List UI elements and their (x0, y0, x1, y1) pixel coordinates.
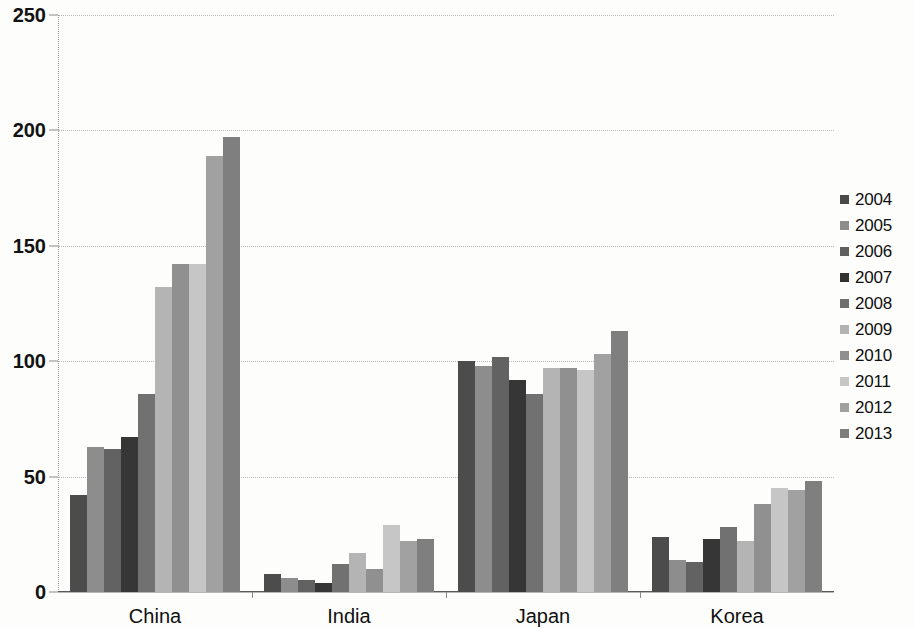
bar-japan-2005 (475, 366, 492, 592)
bar-korea-2013 (805, 481, 822, 592)
bar-group-japan: Japan (446, 15, 640, 592)
legend: 2004200520062007200820092010201120122013 (840, 186, 912, 446)
bar-china-2004 (70, 495, 87, 592)
legend-item-2008[interactable]: 2008 (840, 290, 912, 316)
x-axis-group-separator (640, 592, 641, 598)
x-axis-tick-label-india: India (327, 605, 370, 628)
legend-item-label: 2007 (855, 269, 892, 286)
x-axis-tick-label-japan: Japan (516, 605, 571, 628)
y-axis-tick-label: 200 (0, 120, 46, 140)
bar-india-2009 (349, 553, 366, 592)
bar-india-2008 (332, 564, 349, 592)
legend-item-2006[interactable]: 2006 (840, 238, 912, 264)
bar-china-2013 (223, 137, 240, 592)
legend-item-label: 2005 (855, 217, 892, 234)
y-axis-tick-label: 150 (0, 236, 46, 256)
legend-item-label: 2008 (855, 295, 892, 312)
x-axis-tick-label-korea: Korea (710, 605, 763, 628)
bar-china-2012 (206, 156, 223, 592)
legend-item-label: 2013 (855, 425, 892, 442)
bar-india-2004 (264, 574, 281, 592)
bar-china-2008 (138, 394, 155, 592)
legend-item-label: 2012 (855, 399, 892, 416)
bar-korea-2007 (703, 539, 720, 592)
bar-korea-2006 (686, 562, 703, 592)
legend-swatch-icon (840, 273, 849, 282)
bar-japan-2010 (560, 368, 577, 592)
bar-india-2011 (383, 525, 400, 592)
legend-swatch-icon (840, 351, 849, 360)
bar-china-2005 (87, 447, 104, 592)
y-axis-tick-mark (49, 130, 58, 131)
y-axis-tick-label: 50 (0, 467, 46, 487)
legend-item-label: 2011 (855, 373, 891, 390)
bar-india-2007 (315, 583, 332, 592)
legend-swatch-icon (840, 429, 849, 438)
legend-swatch-icon (840, 377, 849, 386)
legend-item-label: 2006 (855, 243, 892, 260)
chart-figure: 050100150200250 ChinaIndiaJapanKorea 200… (0, 0, 915, 628)
legend-item-label: 2004 (855, 191, 892, 208)
y-axis-tick-mark (49, 592, 58, 593)
legend-item-2010[interactable]: 2010 (840, 342, 912, 368)
bar-japan-2012 (594, 354, 611, 592)
legend-item-2013[interactable]: 2013 (840, 420, 912, 446)
y-axis-tick-mark (49, 245, 58, 246)
y-axis-tick-mark (49, 361, 58, 362)
bar-india-2012 (400, 541, 417, 592)
bar-groups: ChinaIndiaJapanKorea (58, 15, 834, 592)
bar-group-china: China (58, 15, 252, 592)
legend-item-label: 2010 (855, 347, 892, 364)
y-axis-tick-label: 100 (0, 351, 46, 371)
x-axis-group-separator (446, 592, 447, 598)
legend-item-2007[interactable]: 2007 (840, 264, 912, 290)
bar-japan-2007 (509, 380, 526, 592)
legend-item-2004[interactable]: 2004 (840, 186, 912, 212)
bar-korea-2011 (771, 488, 788, 592)
legend-swatch-icon (840, 195, 849, 204)
legend-swatch-icon (840, 247, 849, 256)
bar-china-2009 (155, 287, 172, 592)
legend-item-2009[interactable]: 2009 (840, 316, 912, 342)
x-axis-group-separator (252, 592, 253, 598)
bar-group-india: India (252, 15, 446, 592)
bar-china-2006 (104, 449, 121, 592)
y-axis-tick-label: 0 (0, 582, 46, 602)
bar-korea-2012 (788, 490, 805, 592)
legend-swatch-icon (840, 221, 849, 230)
legend-item-2011[interactable]: 2011 (840, 368, 912, 394)
bar-india-2013 (417, 539, 434, 592)
bar-china-2011 (189, 264, 206, 592)
legend-item-2005[interactable]: 2005 (840, 212, 912, 238)
bar-japan-2004 (458, 361, 475, 592)
bar-japan-2008 (526, 394, 543, 592)
bar-korea-2005 (669, 560, 686, 592)
plot-area: ChinaIndiaJapanKorea (58, 15, 834, 592)
bar-korea-2004 (652, 537, 669, 592)
bar-india-2010 (366, 569, 383, 592)
legend-item-label: 2009 (855, 321, 892, 338)
bar-korea-2010 (754, 504, 771, 592)
bar-india-2006 (298, 580, 315, 592)
bar-japan-2009 (543, 368, 560, 592)
bar-china-2010 (172, 264, 189, 592)
bar-india-2005 (281, 578, 298, 592)
legend-swatch-icon (840, 299, 849, 308)
legend-swatch-icon (840, 325, 849, 334)
y-axis-tick-label: 250 (0, 5, 46, 25)
x-axis-tick-label-china: China (129, 605, 181, 628)
bar-japan-2006 (492, 357, 509, 592)
legend-swatch-icon (840, 403, 849, 412)
bar-group-korea: Korea (640, 15, 834, 592)
y-axis-tick-mark (49, 476, 58, 477)
bar-japan-2013 (611, 331, 628, 592)
bar-japan-2011 (577, 370, 594, 592)
bar-china-2007 (121, 437, 138, 592)
bar-korea-2008 (720, 527, 737, 592)
y-axis-tick-mark (49, 15, 58, 16)
bar-korea-2009 (737, 541, 754, 592)
legend-item-2012[interactable]: 2012 (840, 394, 912, 420)
